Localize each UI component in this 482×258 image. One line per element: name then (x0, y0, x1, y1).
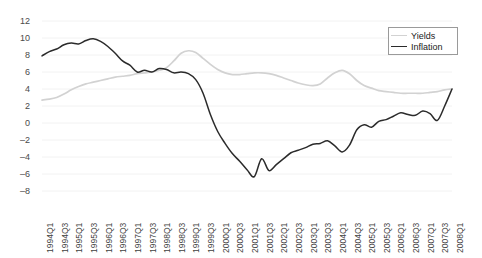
legend-label-inflation: Inflation (411, 42, 443, 52)
y-tick-label: 8 (4, 50, 30, 60)
x-tick-label: 2007Q3 (441, 223, 450, 253)
y-tick-label: 2 (4, 101, 30, 111)
chart-legend: Yields Inflation (388, 27, 458, 55)
x-tick-label: 2000Q3 (236, 223, 245, 253)
y-tick-label: 0 (4, 118, 30, 128)
x-tick-label: 2004Q1 (339, 223, 348, 253)
x-tick-label: 2001Q3 (266, 223, 275, 253)
x-tick-label: 2005Q3 (383, 223, 392, 253)
y-tick-label: 10 (4, 33, 30, 43)
series-line-yields (42, 51, 452, 100)
legend-item-yields: Yields (391, 30, 454, 41)
x-tick-label: 2002Q3 (295, 223, 304, 253)
x-tick-label: 1994Q3 (61, 223, 70, 253)
x-tick-label: 1997Q1 (134, 223, 143, 253)
y-tick-label: 4 (4, 84, 30, 94)
x-tick-label: 1998Q1 (163, 223, 172, 253)
x-tick-label: 2003Q3 (324, 223, 333, 253)
y-tick-label: 6 (4, 67, 30, 77)
x-tick-label: 1998Q3 (178, 223, 187, 253)
x-tick-label: 1999Q1 (192, 223, 201, 253)
legend-swatch-yields (391, 35, 407, 36)
legend-label-yields: Yields (411, 31, 435, 41)
y-tick-label: 12 (4, 16, 30, 26)
legend-item-inflation: Inflation (391, 41, 454, 52)
x-tick-label: 2003Q1 (310, 223, 319, 253)
y-tick-label: –8 (4, 186, 30, 196)
series-lines (42, 39, 452, 177)
x-tick-label: 2001Q1 (251, 223, 260, 253)
x-tick-label: 2008Q1 (456, 223, 465, 253)
y-tick-label: –2 (4, 135, 30, 145)
x-tick-label: 2002Q1 (280, 223, 289, 253)
x-tick-label: 2006Q3 (412, 223, 421, 253)
x-tick-label: 1996Q3 (119, 223, 128, 253)
x-tick-label: 1994Q1 (46, 223, 55, 253)
x-tick-label: 1999Q3 (207, 223, 216, 253)
x-tick-label: 1996Q1 (105, 223, 114, 253)
x-tick-label: 2007Q1 (427, 223, 436, 253)
y-tick-label: –4 (4, 152, 30, 162)
line-chart: 121086420–2–4–6–8 1994Q11994Q31995Q11995… (0, 0, 482, 258)
x-tick-label: 2000Q1 (222, 223, 231, 253)
legend-swatch-inflation (391, 46, 407, 47)
x-tick-label: 2006Q1 (397, 223, 406, 253)
x-tick-label: 1995Q1 (75, 223, 84, 253)
x-tick-label: 1997Q3 (149, 223, 158, 253)
y-tick-label: –6 (4, 169, 30, 179)
x-tick-label: 1995Q3 (90, 223, 99, 253)
series-line-inflation (42, 39, 452, 177)
x-tick-label: 2005Q1 (368, 223, 377, 253)
x-tick-label: 2004Q3 (354, 223, 363, 253)
